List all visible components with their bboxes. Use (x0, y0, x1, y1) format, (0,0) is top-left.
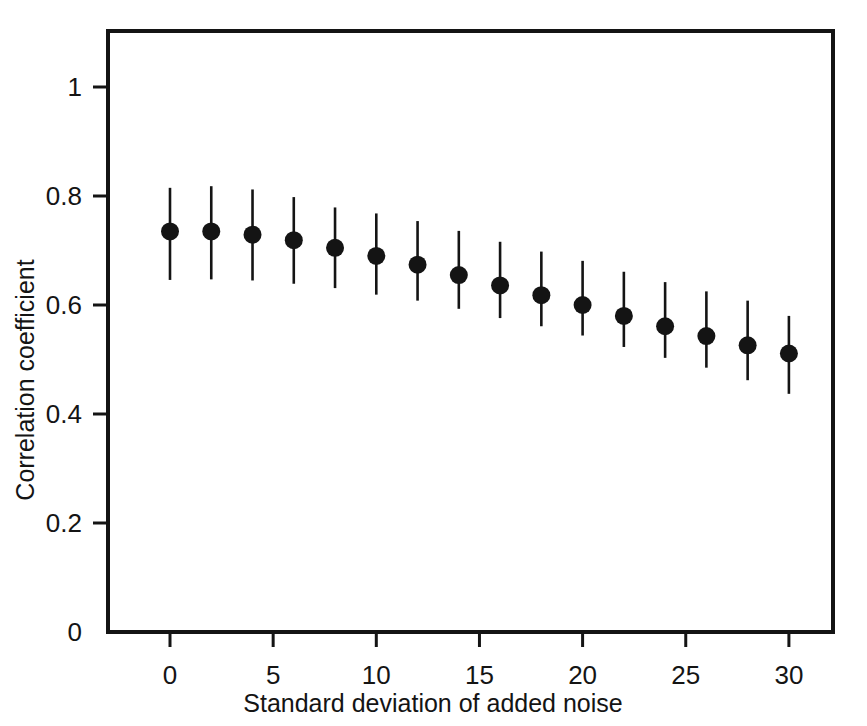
error-bars (170, 186, 789, 394)
x-tick-label: 15 (465, 660, 494, 690)
data-point-marker (532, 286, 550, 304)
x-tick-label: 5 (266, 660, 280, 690)
y-axis-title: Correlation coefficient (11, 259, 39, 500)
x-tick-label: 10 (362, 660, 391, 690)
y-tick-label: 1 (68, 72, 82, 102)
plot-frame (108, 31, 833, 632)
y-tick-label: 0.8 (46, 181, 82, 211)
data-point-marker (574, 296, 592, 314)
x-axis-ticks (170, 632, 789, 647)
y-tick-label: 0.2 (46, 508, 82, 538)
y-tick-label: 0 (68, 617, 82, 647)
y-axis-tick-labels: 00.20.40.60.81 (46, 72, 82, 647)
y-tick-label: 0.4 (46, 399, 82, 429)
data-point-marker (244, 226, 262, 244)
data-point-marker (367, 247, 385, 265)
data-point-marker (409, 256, 427, 274)
data-points (161, 222, 798, 362)
x-tick-label: 30 (774, 660, 803, 690)
x-axis-title: Standard deviation of added noise (243, 689, 622, 717)
data-point-marker (450, 266, 468, 284)
axes-frame (108, 31, 833, 632)
data-point-marker (285, 231, 303, 249)
data-point-marker (202, 222, 220, 240)
data-point-marker (161, 222, 179, 240)
data-point-marker (780, 345, 798, 363)
data-point-marker (491, 276, 509, 294)
data-point-marker (739, 336, 757, 354)
data-point-marker (615, 307, 633, 325)
x-tick-label: 0 (163, 660, 177, 690)
y-axis-ticks (93, 87, 108, 523)
data-point-marker (656, 317, 674, 335)
correlation-vs-noise-chart: 051015202530 00.20.40.60.81 Standard dev… (0, 0, 867, 726)
x-tick-label: 20 (568, 660, 597, 690)
y-tick-label: 0.6 (46, 290, 82, 320)
data-point-marker (697, 327, 715, 345)
data-point-marker (326, 239, 344, 257)
chart-figure: 051015202530 00.20.40.60.81 Standard dev… (0, 0, 867, 726)
x-tick-label: 25 (671, 660, 700, 690)
x-axis-tick-labels: 051015202530 (163, 660, 804, 690)
